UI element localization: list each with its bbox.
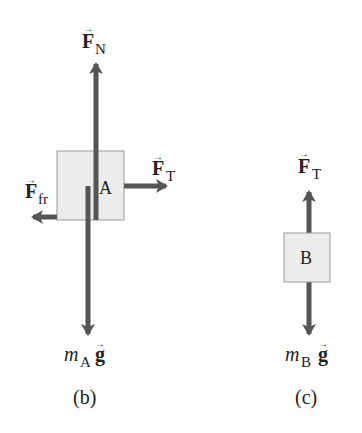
tension-a-label: → F T: [152, 151, 175, 184]
svg-text:A: A: [80, 354, 91, 370]
svg-text:fr: fr: [38, 191, 48, 207]
svg-text:F: F: [298, 155, 310, 177]
caption-b: (b): [73, 386, 96, 409]
svg-text:m: m: [285, 343, 299, 365]
svg-text:B: B: [301, 354, 311, 370]
weight-a-label: m A → g: [64, 338, 105, 370]
normal-force-label: → F N: [82, 23, 106, 57]
svg-text:m: m: [64, 343, 78, 365]
tension-b-label: → F T: [298, 148, 321, 182]
svg-text:g: g: [95, 343, 105, 366]
box-b-label: B: [300, 248, 312, 268]
svg-text:F: F: [82, 30, 94, 52]
svg-text:g: g: [318, 343, 328, 366]
caption-c: (c): [295, 386, 317, 409]
svg-text:F: F: [25, 180, 37, 202]
svg-text:T: T: [166, 168, 175, 184]
box-a-label: A: [99, 178, 112, 198]
weight-b-label: m B → g: [285, 338, 328, 370]
friction-label: → F fr: [25, 174, 48, 207]
svg-text:T: T: [312, 166, 321, 182]
panel-c: B → F T m B → g (c): [284, 148, 330, 409]
panel-b: A → F N → F T → F fr m A → g (b): [25, 23, 175, 409]
svg-text:F: F: [152, 157, 164, 179]
free-body-diagrams: A → F N → F T → F fr m A → g (b): [0, 0, 362, 433]
svg-text:N: N: [95, 41, 106, 57]
